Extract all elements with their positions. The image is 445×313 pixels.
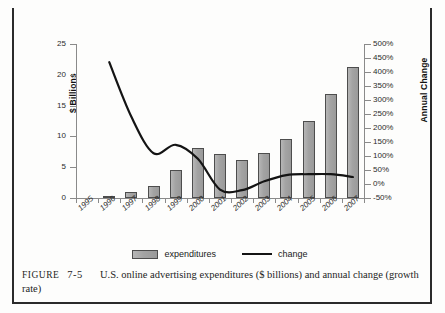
right-axis-title: Annual Change [419,47,429,133]
right-tick-mark [365,86,371,87]
bar-2006 [325,94,337,198]
x-tick-mark [253,199,254,203]
right-tick-label: 100% [373,152,407,160]
bar-2001 [214,154,226,198]
left-tick-label: 25 [40,40,66,48]
bar-2005 [303,121,315,198]
right-tick-mark [365,184,371,185]
right-tick-label: 200% [373,124,407,132]
right-tick-label: 450% [373,54,407,62]
caption-number: 7-5 [67,269,83,280]
x-tick-mark [342,199,343,203]
legend-label-expenditures: expenditures [164,249,216,259]
page-rule-right [430,8,432,304]
left-tick-label: 5 [40,163,66,171]
right-tick-mark [365,198,371,199]
right-tick-label: 300% [373,96,407,104]
x-tick-mark [209,199,210,203]
bar-2000 [192,148,204,198]
x-tick-mark [275,199,276,203]
right-tick-mark [365,114,371,115]
right-tick-label: -50% [373,194,407,202]
page-rule-bottom [12,302,432,304]
bar-1999 [170,170,182,198]
right-tick-mark [365,100,371,101]
x-tick-mark [120,199,121,203]
x-tick-mark [298,199,299,203]
x-tick-mark [187,199,188,203]
right-tick-mark [365,58,371,59]
legend-line-swatch-icon [242,253,272,255]
right-tick-mark [365,72,371,73]
right-tick-label: 0% [373,180,407,188]
right-tick-label: 250% [373,110,407,118]
plot-area [76,44,364,198]
left-tick-label: 0 [40,194,66,202]
x-tick-mark [165,199,166,203]
left-tick-label: 10 [40,132,66,140]
x-tick-mark [364,199,365,203]
x-tick-mark [142,199,143,203]
x-tick-mark [231,199,232,203]
right-tick-mark [365,170,371,171]
right-tick-label: 350% [373,82,407,90]
legend-label-change: change [278,249,308,259]
bar-2002 [236,160,248,198]
legend-bar-swatch-icon [132,250,158,259]
x-tick-mark [98,199,99,203]
x-tick-mark [76,199,77,203]
right-tick-label: 50% [373,166,407,174]
chart-figure: $ Billions Annual Change 0510152025 -50%… [14,10,428,260]
caption-label: FIGURE [22,270,59,280]
right-tick-label: 150% [373,138,407,146]
legend-item-expenditures: expenditures [132,249,216,259]
right-tick-label: 500% [373,40,407,48]
bar-2007 [347,67,359,198]
legend-item-change: change [242,249,308,259]
left-tick-label: 15 [40,102,66,110]
x-tick-mark [320,199,321,203]
right-tick-mark [365,44,371,45]
right-axis-line [364,44,365,199]
figure-page: $ Billions Annual Change 0510152025 -50%… [0,0,445,313]
right-tick-mark [365,128,371,129]
right-tick-label: 400% [373,68,407,76]
right-tick-mark [365,156,371,157]
bar-2004 [280,139,292,198]
left-tick-label: 20 [40,71,66,79]
figure-caption: FIGURE 7-5 U.S. online advertising expen… [22,268,422,296]
right-tick-mark [365,142,371,143]
bar-2003 [258,153,270,198]
chart-legend: expenditures change [76,246,364,262]
